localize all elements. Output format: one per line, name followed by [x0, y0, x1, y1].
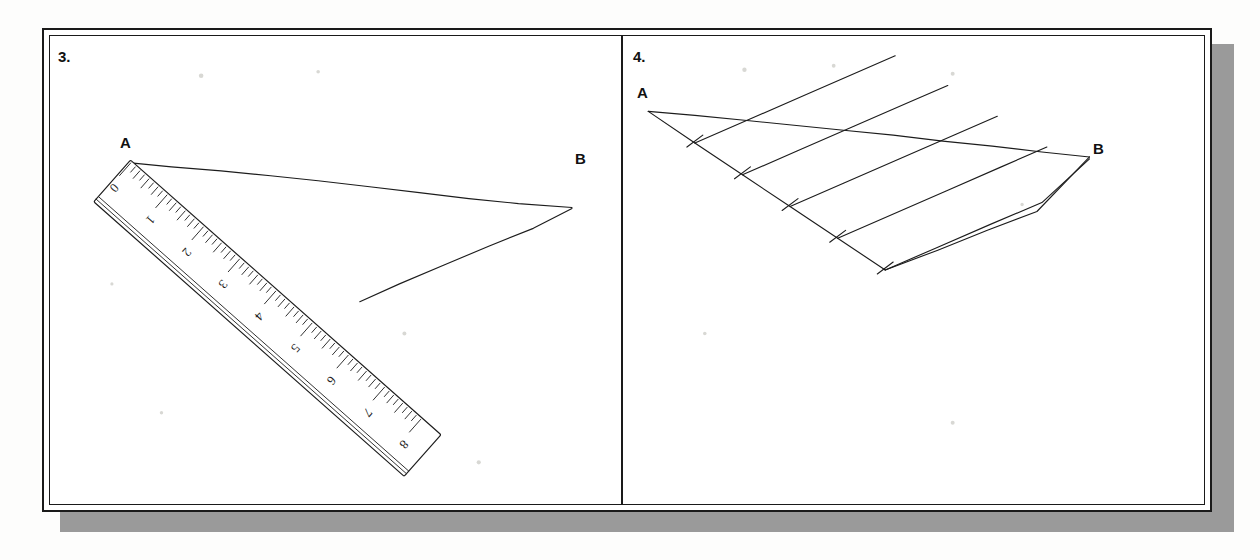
panel-3-segment-ab	[131, 163, 572, 208]
panel-4-parallel-3	[790, 116, 997, 206]
scan-specks	[110, 70, 481, 465]
figure-outer-frame: 3. A B	[42, 28, 1212, 512]
panel-4-drawing	[623, 36, 1207, 504]
ruler: 0 1 2 3 4 5 6 7 8	[93, 159, 441, 476]
panel-4-segment-tick5-to-b	[885, 159, 1089, 270]
figure-panel-3: 3. A B	[50, 36, 621, 504]
figure-inner-frame: 3. A B	[49, 35, 1205, 505]
figure-panel-4: 4. A B	[623, 36, 1207, 504]
panel-4-construction-ray	[648, 111, 885, 270]
worksheet-sheet: 3. A B	[0, 0, 1260, 560]
panel-4-parallel-1	[695, 56, 895, 143]
panel-4-transversal-5	[885, 157, 1089, 270]
panel-4-ray-tick-marks	[687, 135, 893, 274]
panel-4-parallel-2	[742, 86, 947, 175]
ruler-digit-group: 0 1 2 3 4 5 6 7 8	[106, 181, 411, 452]
ruler-bevel-edge-2	[96, 199, 406, 474]
panel-3-drawing: 0 1 2 3 4 5 6 7 8	[50, 36, 621, 504]
panel-3-segment-five-to-b	[360, 209, 572, 302]
ruler-bevel-edge	[98, 197, 408, 472]
panel-4-parallel-4	[838, 147, 1047, 238]
